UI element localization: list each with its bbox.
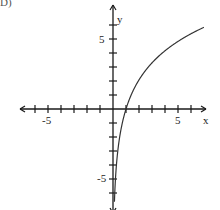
- y-axis-label: y: [117, 13, 123, 25]
- graph: -5 5 5 -5 x y: [0, 0, 220, 210]
- x-tick-label-5: 5: [175, 114, 181, 126]
- x-tick-label-neg5: -5: [42, 114, 52, 126]
- x-axis-label: x: [203, 114, 209, 126]
- curve: [114, 27, 203, 201]
- problem-label: D): [0, 0, 12, 8]
- y-tick-label-neg5: -5: [97, 172, 107, 184]
- y-tick-label-5: 5: [99, 33, 105, 45]
